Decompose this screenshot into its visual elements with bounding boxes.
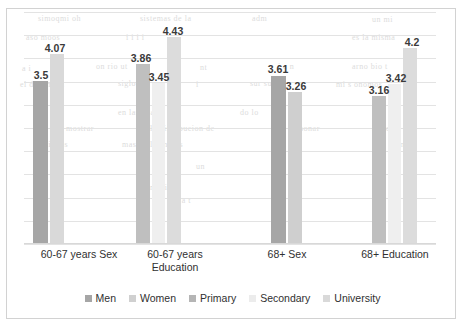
category-label-line: 68+ Education	[340, 248, 450, 261]
gridline	[24, 82, 436, 83]
legend-item-university[interactable]: University	[323, 292, 380, 304]
gridline	[24, 244, 436, 245]
category-label-line: 68+ Sex	[242, 248, 332, 261]
legend-swatch-icon	[323, 295, 330, 302]
category-label-0: 60-67 years Sex	[24, 248, 134, 261]
bar	[50, 54, 64, 243]
category-label-3: 68+ Education	[340, 248, 450, 261]
category-label-2: 68+ Sex	[242, 248, 332, 261]
gridline	[24, 58, 436, 59]
bar	[152, 83, 165, 243]
gridline	[24, 12, 436, 13]
legend-label: Women	[140, 292, 176, 304]
gridline	[24, 35, 436, 36]
legend-label: University	[334, 292, 380, 304]
axis-baseline	[24, 243, 436, 244]
legend-swatch-icon	[85, 295, 92, 302]
plot-area	[24, 12, 436, 244]
legend-label: Primary	[200, 292, 236, 304]
category-axis: 60-67 years Sex60-67 yearsEducation68+ S…	[24, 248, 436, 288]
bar	[388, 84, 401, 243]
bar	[136, 64, 150, 243]
category-label-line: 60-67 years	[120, 248, 230, 261]
bar	[403, 48, 417, 243]
chart-legend: MenWomenPrimarySecondaryUniversity	[0, 292, 465, 304]
category-label-line: 60-67 years Sex	[24, 248, 134, 261]
bar	[372, 96, 386, 243]
legend-swatch-icon	[129, 295, 136, 302]
bar	[33, 81, 48, 243]
bar	[288, 92, 302, 243]
category-label-1: 60-67 yearsEducation	[120, 248, 230, 274]
legend-label: Secondary	[260, 292, 310, 304]
legend-swatch-icon	[189, 295, 196, 302]
category-label-line: Education	[120, 261, 230, 274]
legend-item-men[interactable]: Men	[85, 292, 116, 304]
legend-label: Men	[96, 292, 116, 304]
legend-item-secondary[interactable]: Secondary	[249, 292, 310, 304]
bar	[167, 37, 181, 243]
legend-item-primary[interactable]: Primary	[189, 292, 236, 304]
legend-swatch-icon	[249, 295, 256, 302]
legend-item-women[interactable]: Women	[129, 292, 176, 304]
bar	[271, 76, 286, 244]
